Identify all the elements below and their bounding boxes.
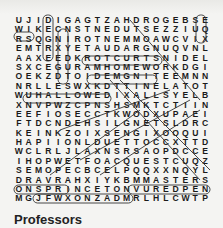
- grid-letter[interactable]: P: [200, 194, 210, 203]
- grid-letter[interactable]: M: [14, 194, 24, 203]
- grid-letter[interactable]: J: [34, 194, 44, 203]
- page-top-edge: [0, 0, 223, 14]
- grid-letter[interactable]: X: [63, 194, 73, 203]
- grid-letter[interactable]: O: [73, 194, 83, 203]
- grid-letter[interactable]: R: [132, 194, 142, 203]
- grid-letter[interactable]: A: [102, 194, 112, 203]
- word-list-title: Professors: [14, 212, 82, 227]
- grid-letter[interactable]: L: [161, 194, 171, 203]
- grid-letter[interactable]: M: [122, 194, 132, 203]
- grid-letter[interactable]: W: [53, 194, 63, 203]
- grid-letter[interactable]: F: [43, 194, 53, 203]
- word-search-grid[interactable]: UJIDIGAGTZAHDROGEBSEWIKECNSTNEDUTSEZZIUQ…: [14, 16, 210, 204]
- grid-letter[interactable]: H: [151, 194, 161, 203]
- grid-letter[interactable]: Z: [92, 194, 102, 203]
- grid-letter[interactable]: L: [141, 194, 151, 203]
- grid-letter[interactable]: T: [190, 194, 200, 203]
- grid-letter[interactable]: G: [24, 194, 34, 203]
- grid-letter[interactable]: N: [83, 194, 93, 203]
- grid-letter[interactable]: C: [171, 194, 181, 203]
- grid-letter[interactable]: D: [112, 194, 122, 203]
- grid-letter[interactable]: W: [181, 194, 191, 203]
